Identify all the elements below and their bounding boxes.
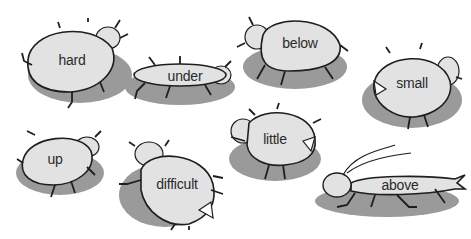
word-label: up xyxy=(47,151,62,167)
word-label: under xyxy=(168,68,203,84)
bug-little: little xyxy=(225,105,325,185)
word-label: difficult xyxy=(156,176,198,192)
bug-difficult: difficult xyxy=(115,140,225,230)
bug-up: up xyxy=(15,125,105,200)
word-label: little xyxy=(263,131,287,147)
round-beetle-icon xyxy=(235,15,350,90)
bug-small: small xyxy=(360,45,465,130)
word-label: below xyxy=(282,35,318,51)
bug-below: below xyxy=(235,15,350,90)
bug-word-illustration: hard under below small xyxy=(0,0,471,239)
word-label: above xyxy=(381,177,418,193)
word-label: small xyxy=(396,75,428,91)
word-label: hard xyxy=(58,52,85,68)
bug-hard: hard xyxy=(20,20,125,105)
bug-above: above xyxy=(315,145,465,220)
bug-under: under xyxy=(125,55,235,105)
